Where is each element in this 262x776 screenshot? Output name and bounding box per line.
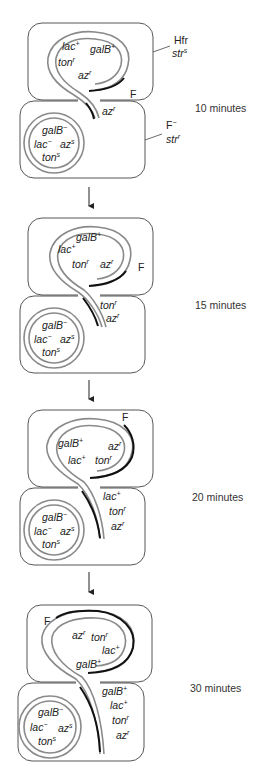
panel-20-minutes: F galB+ azr lac+ tonr lac+ tonr azr galB… [20,410,243,565]
transferred-strand [80,687,100,752]
gene: azs [60,138,75,150]
recipient-chromosome-outer [24,500,84,560]
gene: azr [72,629,86,641]
gene: lac+ [103,490,121,502]
hfr-label: Hfr [174,34,189,46]
gene: tonr [100,299,118,311]
gene: azr [106,312,120,324]
gene: tonr [91,631,109,643]
time-label: 15 minutes [195,299,246,311]
hfr-cell [28,218,153,295]
gene: azr [116,729,130,741]
gene: lac+ [68,454,86,466]
gene: azs [60,525,75,537]
gene: lac− [34,525,52,537]
gene: tons [42,346,61,358]
recipient-chromosome-outer [24,113,84,173]
time-label: 30 minutes [190,682,241,694]
fminus-label: F− [166,119,177,131]
gene: galB+ [76,231,101,243]
time-label: 10 minutes [195,102,246,114]
gene: tons [42,151,61,163]
recipient-chromosome-outer [24,308,84,368]
gene: azs [58,722,73,734]
gene: azr [102,105,116,117]
f-label: F [138,261,144,273]
gene: tonr [58,56,76,68]
gene: lac+ [62,40,80,52]
panel-10-minutes: F lac+ galB+ tonr azr azr galB− lac− azs… [20,23,246,178]
conjugation-diagram: F lac+ galB+ tonr azr azr galB− lac− azs… [0,0,262,776]
panel-30-minutes: F azr tonr lac+ galB+ galB+ lac+ tonr az… [18,605,241,761]
gene: galB+ [58,437,83,449]
gene: lac− [34,333,52,345]
gene: tonr [95,454,113,466]
gene: azr [100,258,114,270]
gene: galB− [42,511,67,523]
gene: lac− [34,138,52,150]
gene: azr [111,520,125,532]
gene: lac− [30,721,48,733]
f-label: F [122,411,128,423]
gene: galB+ [102,685,127,697]
gene: lac+ [102,644,120,656]
gene: azs [60,333,75,345]
gene: galB− [42,319,67,331]
gene: galB+ [76,658,101,670]
gene: azr [108,440,122,452]
panel-15-minutes: F galB+ lac+ tonr azr tonr azr galB− lac… [20,218,246,373]
time-label: 20 minutes [192,491,243,503]
hfr-str-label: strs [172,47,188,59]
f-factor-segment [89,271,126,286]
gene: azr [78,69,92,81]
f-label: F [130,88,136,100]
gene: tonr [109,505,127,517]
gene: lac+ [58,243,76,255]
gene: tons [38,735,57,747]
gene: lac+ [110,699,128,711]
gene: galB− [38,706,63,718]
gene: galB− [42,124,67,136]
gene: tonr [112,714,130,726]
fminus-str-label: strr [166,133,181,145]
f-label: F [44,615,50,627]
gene: tons [42,538,61,550]
gene: galB+ [90,43,115,55]
gene: tonr [72,258,90,270]
f-factor-segment [89,78,124,91]
